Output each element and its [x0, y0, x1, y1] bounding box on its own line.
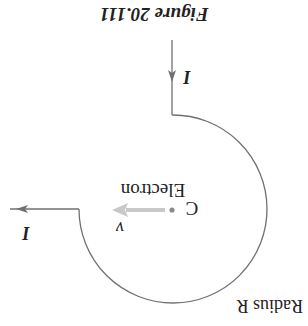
velocity-label: v: [116, 218, 124, 238]
current-in-label: I: [183, 67, 192, 87]
electron-label: Electron: [120, 180, 185, 201]
center-label: C: [186, 198, 199, 219]
current-out-label: I: [22, 223, 31, 243]
center-point: [169, 207, 174, 212]
velocity-arrow-icon: [112, 203, 128, 217]
figure-caption: Figure 20.111: [100, 4, 210, 25]
current-loop-diagram: Figure 20.111 I I C Electron v Radius R: [0, 0, 308, 326]
radius-label: Radius R: [236, 296, 303, 316]
